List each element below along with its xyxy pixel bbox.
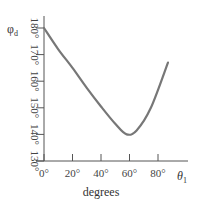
y-tick-label: 140° xyxy=(29,124,41,145)
y-tick-label: 180° xyxy=(29,18,41,39)
y-axis-label: φd xyxy=(7,22,18,38)
x-axis-label: degrees xyxy=(83,185,120,199)
x-tick-label: 60° xyxy=(122,167,137,179)
x-tick-label: 40° xyxy=(93,167,108,179)
x-tick-label: 80° xyxy=(150,167,165,179)
chart: 130°140°150°160°170°180°0°20°40°60°80° φ… xyxy=(0,0,201,206)
axes xyxy=(36,16,188,161)
data-curve xyxy=(44,28,168,135)
x-tick-label: 0° xyxy=(39,167,49,179)
y-tick-label: 150° xyxy=(29,97,41,118)
y-tick-label: 160° xyxy=(29,71,41,92)
ticks: 130°140°150°160°170°180°0°20°40°60°80° xyxy=(29,18,166,179)
y-tick-label: 170° xyxy=(29,44,41,65)
x-tick-label: 20° xyxy=(65,167,80,179)
x-axis-symbol: θ1 xyxy=(177,169,187,185)
